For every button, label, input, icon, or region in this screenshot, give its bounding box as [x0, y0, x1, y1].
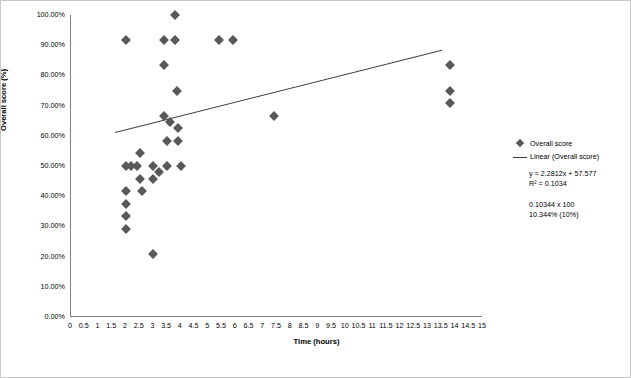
- y-tick-label: 70.00%: [13, 101, 65, 110]
- data-point: [121, 199, 131, 209]
- legend-line-icon: [513, 152, 527, 161]
- data-point: [121, 211, 131, 221]
- y-tick-label: 100.00%: [13, 10, 65, 19]
- data-point: [173, 123, 183, 133]
- data-point: [121, 186, 131, 196]
- data-point: [445, 98, 455, 108]
- x-axis-title: Time (hours): [1, 337, 631, 346]
- trendline-equation: y = 2.2812x + 57.577 R² = 0.1034: [529, 169, 597, 189]
- data-point: [159, 60, 169, 70]
- chart-container: Overall score (%) 0.00%10.00%20.00%30.00…: [0, 0, 631, 378]
- legend-diamond-icon: [513, 139, 527, 148]
- data-point: [173, 136, 183, 146]
- legend-item-scatter: Overall score: [513, 137, 625, 150]
- data-point: [228, 35, 238, 45]
- y-tick-label: 0.00%: [13, 312, 65, 321]
- data-layer: [71, 15, 482, 316]
- chart-plot-area: Overall score (%) 0.00%10.00%20.00%30.00…: [1, 1, 631, 378]
- data-point: [135, 148, 145, 158]
- data-point: [137, 186, 147, 196]
- data-point: [135, 174, 145, 184]
- data-point: [269, 111, 279, 121]
- plot-box: [70, 15, 482, 317]
- note-line-2: 10.344% (10%): [529, 210, 579, 220]
- data-point: [445, 60, 455, 70]
- y-axis-title: Overall score (%): [0, 69, 8, 131]
- data-point: [159, 35, 169, 45]
- data-point: [170, 35, 180, 45]
- data-point: [121, 224, 131, 234]
- y-tick-label: 10.00%: [13, 282, 65, 291]
- data-point: [162, 136, 172, 146]
- data-point: [162, 161, 172, 171]
- legend-label-trendline: Linear (Overall score): [530, 152, 599, 161]
- legend-label-scatter: Overall score: [530, 139, 572, 148]
- legend: Overall score Linear (Overall score): [513, 137, 625, 163]
- data-point: [148, 249, 158, 259]
- y-tick-label: 20.00%: [13, 252, 65, 261]
- y-tick-label: 60.00%: [13, 131, 65, 140]
- equation-line: y = 2.2812x + 57.577: [529, 169, 597, 179]
- y-tick-label: 90.00%: [13, 40, 65, 49]
- y-tick-label: 40.00%: [13, 191, 65, 200]
- r-squared-line: R² = 0.1034: [529, 179, 597, 189]
- data-point: [214, 35, 224, 45]
- data-point: [121, 35, 131, 45]
- y-tick-label: 30.00%: [13, 221, 65, 230]
- x-tick-label: 15: [470, 321, 494, 330]
- data-point: [170, 10, 180, 20]
- y-tick-label: 50.00%: [13, 161, 65, 170]
- annotation-note: 0.10344 x 100 10.344% (10%): [529, 200, 579, 220]
- note-line-1: 0.10344 x 100: [529, 200, 579, 210]
- data-point: [176, 161, 186, 171]
- data-point: [172, 86, 182, 96]
- data-point: [445, 86, 455, 96]
- legend-item-trendline: Linear (Overall score): [513, 150, 625, 163]
- y-tick-label: 80.00%: [13, 70, 65, 79]
